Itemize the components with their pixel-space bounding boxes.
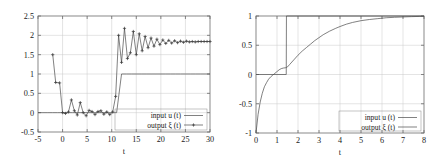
y-tick-label: 0 xyxy=(248,71,252,80)
series-marker-1 xyxy=(132,30,135,33)
x-tick-label: 15 xyxy=(132,135,140,144)
x-tick-label: 3 xyxy=(317,136,321,145)
legend-label-1: output ξ (t) xyxy=(361,123,395,132)
series-marker-1 xyxy=(200,40,203,43)
series-marker-1 xyxy=(120,61,123,64)
series-marker-1 xyxy=(117,34,120,37)
series-marker-1 xyxy=(188,40,191,43)
series-marker-1 xyxy=(141,49,144,52)
x-tick-label: 2 xyxy=(296,136,300,145)
right-plot-svg: 012345678 -1-0.500.51 t input u (t)outpu… xyxy=(215,0,431,168)
series-marker-1 xyxy=(51,53,54,56)
series-marker-1 xyxy=(155,38,158,41)
y-tick-label: 2.5 xyxy=(24,12,34,21)
chart-panel-left: -5051015202530 -0.500.511.522.5 t input … xyxy=(0,0,215,168)
right-x-tick-labels: 012345678 xyxy=(254,136,426,145)
y-tick-label: -0.5 xyxy=(21,128,34,137)
x-tick-label: 5 xyxy=(359,136,363,145)
series-marker-1 xyxy=(129,51,132,54)
x-tick-label: 0 xyxy=(61,135,65,144)
series-marker-1 xyxy=(194,40,197,43)
right-y-tick-labels: -1-0.500.51 xyxy=(239,12,252,138)
right-legend: input u (t)output ξ (t) xyxy=(339,111,421,132)
y-tick-label: 1 xyxy=(30,70,34,79)
x-tick-label: 7 xyxy=(401,136,405,145)
series-marker-1 xyxy=(123,27,126,30)
left-x-tick-labels: -5051015202530 xyxy=(35,135,215,144)
series-marker-1 xyxy=(79,101,82,104)
x-tick-label: 8 xyxy=(422,136,426,145)
left-y-tick-labels: -0.500.511.522.5 xyxy=(21,12,34,137)
x-tick-label: 1 xyxy=(275,136,279,145)
x-tick-label: 4 xyxy=(338,136,342,145)
x-tick-label: 0 xyxy=(254,136,258,145)
y-tick-label: 0.5 xyxy=(242,41,252,50)
series-marker-1 xyxy=(138,32,141,35)
x-tick-label: 30 xyxy=(206,135,214,144)
legend-label-0: input u (t) xyxy=(151,111,182,120)
series-marker-1 xyxy=(208,40,211,43)
x-tick-label: 6 xyxy=(380,136,384,145)
x-tick-label: -5 xyxy=(35,135,42,144)
chart-panel-right: 012345678 -1-0.500.51 t input u (t)outpu… xyxy=(215,0,431,168)
right-x-axis-title: t xyxy=(339,148,342,157)
y-tick-label: 1.5 xyxy=(24,51,34,60)
y-tick-label: 2 xyxy=(30,31,34,40)
y-tick-label: 0 xyxy=(30,109,34,118)
series-marker-1 xyxy=(126,57,129,60)
series-marker-1 xyxy=(203,40,206,43)
series-marker-1 xyxy=(152,45,155,48)
y-tick-label: -1 xyxy=(245,129,252,138)
y-tick-label: 0.5 xyxy=(24,89,34,98)
series-marker-1 xyxy=(61,111,64,114)
series-marker-1 xyxy=(149,36,152,39)
left-plot-svg: -5051015202530 -0.500.511.522.5 t input … xyxy=(0,0,215,168)
left-x-axis-title: t xyxy=(123,147,126,156)
x-tick-label: 20 xyxy=(157,135,165,144)
x-tick-label: 5 xyxy=(85,135,89,144)
series-marker-1 xyxy=(191,40,194,43)
series-marker-1 xyxy=(135,53,138,56)
x-tick-label: 25 xyxy=(181,135,189,144)
series-marker-1 xyxy=(197,40,200,43)
series-marker-1 xyxy=(70,98,73,101)
left-legend: input u (t)output ξ (t) xyxy=(115,109,207,130)
series-marker-1 xyxy=(114,95,117,98)
legend-label-1: output ξ (t) xyxy=(147,121,181,130)
series-marker-1 xyxy=(205,40,208,43)
series-marker-1 xyxy=(146,46,149,49)
figure-container: -5051015202530 -0.500.511.522.5 t input … xyxy=(0,0,431,168)
series-marker-1 xyxy=(179,40,182,43)
y-tick-label: 1 xyxy=(248,12,252,21)
series-marker-1 xyxy=(54,81,57,84)
series-marker-1 xyxy=(58,81,61,84)
legend-label-0: input u (t) xyxy=(365,113,396,122)
series-marker-1 xyxy=(182,41,185,44)
series-marker-1 xyxy=(88,109,91,112)
x-tick-label: 10 xyxy=(108,135,116,144)
y-tick-label: -0.5 xyxy=(239,100,252,109)
